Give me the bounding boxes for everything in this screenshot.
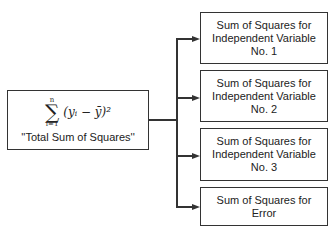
ss-independent-variable-3-box: Sum of Squares for Independent Variable … [200, 128, 328, 181]
total-sum-label: ''Total Sum of Squares'' [21, 131, 135, 144]
ss-error-box: Sum of Squares for Error [200, 187, 328, 226]
summation-symbol: n ∑ i=1 [45, 96, 59, 128]
connector-branch-4 [176, 206, 193, 208]
arrow-icon [192, 153, 200, 159]
arrow-icon [192, 204, 200, 210]
sum-expression: (yᵢ − ȳ)² [63, 106, 111, 119]
ss-independent-variable-1-box: Sum of Squares for Independent Variable … [200, 12, 328, 64]
arrow-icon [192, 95, 200, 101]
arrow-icon [192, 36, 200, 42]
connector-branch-1 [176, 38, 193, 40]
total-sum-of-squares-box: n ∑ i=1 (yᵢ − ȳ)² ''Total Sum of Squares… [7, 90, 149, 150]
connector-trunk [176, 38, 178, 207]
sum-formula: n ∑ i=1 (yᵢ − ȳ)² [45, 96, 111, 128]
connector-branch-2 [176, 97, 193, 99]
ss-independent-variable-2-box: Sum of Squares for Independent Variable … [200, 70, 328, 122]
connector-branch-3 [176, 155, 193, 157]
connector-from-source [149, 119, 177, 121]
